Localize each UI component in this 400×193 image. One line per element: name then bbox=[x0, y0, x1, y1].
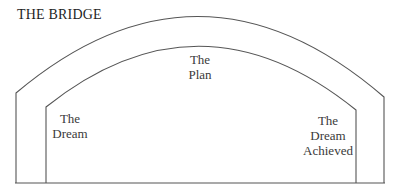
label-line: The bbox=[50, 111, 90, 126]
label-the-dream-achieved: The Dream Achieved bbox=[300, 113, 356, 158]
label-the-dream: The Dream bbox=[50, 111, 90, 141]
label-line: Dream bbox=[50, 126, 90, 141]
label-line: Dream bbox=[300, 128, 356, 143]
label-line: The bbox=[300, 113, 356, 128]
label-line: The bbox=[183, 52, 217, 67]
label-line: Achieved bbox=[300, 143, 356, 158]
bridge-diagram bbox=[0, 0, 400, 193]
label-the-plan: The Plan bbox=[183, 52, 217, 82]
label-line: Plan bbox=[183, 67, 217, 82]
outer-arch bbox=[16, 16, 384, 183]
